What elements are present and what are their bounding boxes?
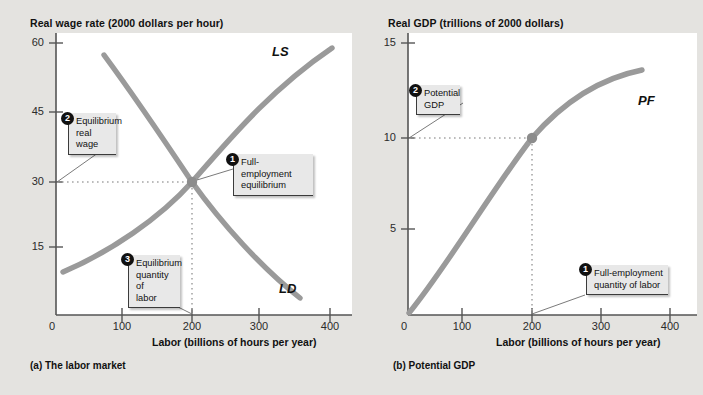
callout-3-line3: labor — [136, 293, 175, 305]
production-function-label: PF — [638, 93, 655, 108]
panel-a-xlabel-0: 0 — [41, 320, 63, 332]
panel-a-ylabel-45: 45 — [18, 105, 44, 117]
panel-a-xlabel-400: 400 — [315, 320, 345, 332]
panel-b-callout-2-line1: Potential — [424, 88, 455, 100]
panel-a-ylabel-15: 15 — [18, 240, 44, 252]
panel-b-ylabel-5: 5 — [370, 222, 396, 234]
panel-b-x-axis-title: Labor (billions of hours per year) — [496, 336, 661, 348]
callout-2-line1: Equilibrium — [76, 116, 111, 128]
callout-equilibrium-real-wage: Equilibrium real wage — [68, 113, 116, 155]
callout-equilibrium-quantity-of-labor: Equilibrium quantity of labor — [128, 255, 180, 308]
figure-container: Real wage rate (2000 dollars per hour) — [0, 0, 703, 395]
panel-a-ylabel-30: 30 — [18, 175, 44, 187]
callout-3-line2: quantity of — [136, 270, 175, 293]
callout-1-line1: Full-employment — [241, 157, 308, 180]
callout-3-line1: Equilibrium — [136, 258, 175, 270]
panel-b-callout-1-line2: quantity of labor — [594, 280, 663, 292]
panel-a-caption: (a) The labor market — [30, 360, 126, 371]
panel-b-xlabel-100: 100 — [447, 320, 477, 332]
panel-potential-gdp: Real GDP (trillions of 2000 dollars) — [350, 0, 703, 395]
panel-b-xlabel-200: 200 — [517, 320, 547, 332]
callout-badge-1: 1 — [226, 153, 239, 166]
panel-a-xlabel-300: 300 — [244, 320, 274, 332]
panel-b-callout-badge-1: 1 — [579, 263, 592, 276]
panel-b-callout-2-line2: GDP — [424, 100, 455, 112]
panel-b-caption: (b) Potential GDP — [393, 360, 475, 371]
panel-b-callout-1-line1: Full-employment — [594, 268, 663, 280]
panel-a-x-axis-title: Labor (billions of hours per year) — [152, 336, 317, 348]
panel-labor-market: Real wage rate (2000 dollars per hour) — [0, 0, 360, 395]
callout-1-line2: equilibrium — [241, 180, 308, 192]
panel-b-xlabel-300: 300 — [586, 320, 616, 332]
callout-potential-gdp: Potential GDP — [416, 85, 460, 115]
panel-a-xlabel-200: 200 — [177, 320, 207, 332]
panel-b-ylabel-10: 10 — [370, 131, 396, 143]
panel-b-xlabel-400: 400 — [655, 320, 685, 332]
labor-demand-label: LD — [279, 281, 296, 296]
panel-a-xlabel-100: 100 — [107, 320, 137, 332]
callout-full-employment-quantity-of-labor: Full-employment quantity of labor — [586, 265, 668, 295]
equilibrium-point-marker — [187, 177, 197, 187]
panel-b-callout-1-leader-line — [532, 295, 585, 314]
panel-b-xlabel-0: 0 — [393, 320, 415, 332]
callout-2-line2: real wage — [76, 128, 111, 151]
callout-badge-3: 3 — [121, 253, 134, 266]
potential-gdp-point-marker — [527, 133, 537, 143]
callout-full-employment-equilibrium: Full-employment equilibrium — [233, 154, 313, 196]
panel-b-callout-badge-2: 2 — [409, 84, 422, 97]
callout-badge-2: 2 — [61, 112, 74, 125]
panel-a-ylabel-60: 60 — [18, 36, 44, 48]
labor-supply-label: LS — [272, 44, 289, 59]
panel-b-ylabel-15: 15 — [370, 36, 396, 48]
